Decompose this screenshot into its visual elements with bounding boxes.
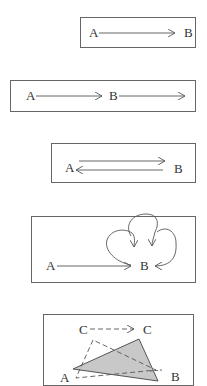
label-b: B	[174, 161, 183, 176]
loop-arrow-middle	[129, 214, 158, 246]
loop-arrow-right	[155, 229, 176, 266]
triangle-shift-diagram: C C A B	[60, 322, 180, 385]
label-a: A	[60, 370, 70, 385]
repeated-arrival-diagram: A B	[46, 214, 176, 273]
label-a: A	[89, 25, 99, 40]
label-b: B	[171, 369, 180, 384]
back-and-forth-diagram: A B	[65, 160, 183, 176]
label-a: A	[65, 160, 75, 175]
shaded-triangle	[73, 339, 158, 381]
diagram-canvas: A B A B A B A B C C A B	[0, 0, 207, 386]
continued-move-diagram: A B	[26, 88, 185, 103]
label-b: B	[140, 258, 149, 273]
label-b: B	[109, 88, 118, 103]
label-a: A	[26, 88, 36, 103]
label-a: A	[46, 258, 56, 273]
label-c-start: C	[79, 322, 88, 337]
label-b: B	[184, 25, 193, 40]
label-c-end: C	[143, 322, 152, 337]
single-move-diagram: A B	[89, 25, 193, 40]
